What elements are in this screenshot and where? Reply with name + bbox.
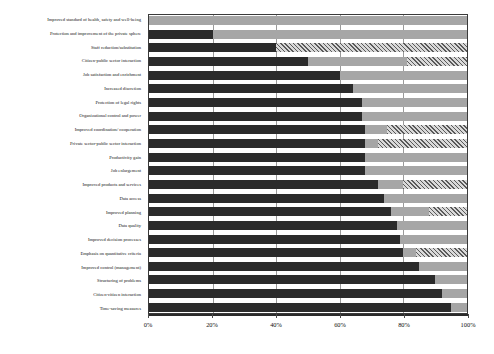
table-row bbox=[149, 16, 467, 25]
bar-segment-segment-b bbox=[397, 221, 467, 230]
bar-segment-segment-b bbox=[400, 235, 467, 244]
y-axis-label: Protection and improvement of the privat… bbox=[6, 29, 144, 38]
bar-segment-segment-a bbox=[149, 235, 400, 244]
y-axis-label: Data access bbox=[6, 194, 144, 203]
y-axis-label: Improved decision processes bbox=[6, 235, 144, 244]
y-axis-label: Citizen-public sector interaction bbox=[6, 56, 144, 65]
table-row bbox=[149, 112, 467, 121]
y-axis-label: Staff reduction/substitution bbox=[6, 43, 144, 52]
table-row bbox=[149, 57, 467, 66]
x-axis-tick bbox=[148, 314, 149, 318]
stacked-bar-chart: Improved standard of health, safety and … bbox=[0, 0, 494, 354]
bar-segment-segment-c bbox=[276, 43, 467, 52]
table-row bbox=[149, 30, 467, 39]
plot-area bbox=[148, 14, 468, 314]
table-row bbox=[149, 153, 467, 162]
bar-segment-segment-b bbox=[340, 71, 467, 80]
bar-segment-segment-b bbox=[442, 289, 467, 298]
table-row bbox=[149, 125, 467, 134]
bar-segment-segment-a bbox=[149, 139, 365, 148]
bar-segment-segment-a bbox=[149, 207, 391, 216]
bar-segment-segment-c bbox=[387, 125, 467, 134]
y-axis-label: Citizen-citizen interaction bbox=[6, 290, 144, 299]
bar-segment-segment-b bbox=[362, 112, 467, 121]
x-axis-tick bbox=[212, 314, 213, 318]
bar-segment-segment-a bbox=[149, 248, 403, 257]
bar-segment-segment-b bbox=[403, 248, 416, 257]
bar-segment-segment-a bbox=[149, 194, 384, 203]
table-row bbox=[149, 275, 467, 284]
table-row bbox=[149, 194, 467, 203]
bar-segment-segment-b bbox=[365, 166, 467, 175]
y-axis-label: Job satisfaction and enrichment bbox=[6, 70, 144, 79]
bar-rows bbox=[149, 15, 467, 313]
bar-segment-segment-b bbox=[308, 57, 407, 66]
y-axis-label: Improved products and services bbox=[6, 180, 144, 189]
table-row bbox=[149, 71, 467, 80]
y-axis-label: Increased discretion bbox=[6, 84, 144, 93]
bar-segment-segment-c bbox=[429, 207, 467, 216]
x-axis-tick bbox=[276, 314, 277, 318]
y-axis-label: Improved standard of health, safety and … bbox=[6, 15, 144, 24]
bar-segment-segment-a bbox=[149, 166, 365, 175]
bar-segment-segment-c bbox=[378, 139, 467, 148]
bar-segment-segment-a bbox=[149, 221, 397, 230]
bar-segment-segment-a bbox=[149, 98, 362, 107]
table-row bbox=[149, 235, 467, 244]
bar-segment-segment-a bbox=[149, 303, 451, 312]
bar-segment-segment-c bbox=[403, 180, 467, 189]
y-axis-category-labels: Improved standard of health, safety and … bbox=[6, 14, 144, 314]
table-row bbox=[149, 84, 467, 93]
bar-segment-segment-b bbox=[362, 98, 467, 107]
y-axis-label: Improved control (management) bbox=[6, 263, 144, 272]
bar-segment-segment-b bbox=[365, 139, 378, 148]
y-axis-label: Improved planning bbox=[6, 208, 144, 217]
bar-segment-segment-a bbox=[149, 153, 365, 162]
x-axis-tick-label: 100% bbox=[461, 320, 476, 330]
bar-segment-segment-a bbox=[149, 125, 365, 134]
x-axis-tick-label: 60% bbox=[334, 320, 346, 330]
bar-segment-segment-a bbox=[149, 112, 362, 121]
table-row bbox=[149, 166, 467, 175]
x-axis-tick bbox=[404, 314, 405, 318]
x-axis-tick-label: 0% bbox=[144, 320, 153, 330]
bar-segment-segment-b bbox=[384, 194, 467, 203]
y-axis-label: Data quality bbox=[6, 221, 144, 230]
table-row bbox=[149, 207, 467, 216]
bar-segment-segment-b bbox=[365, 125, 387, 134]
bar-segment-segment-a bbox=[149, 57, 308, 66]
table-row bbox=[149, 289, 467, 298]
bar-segment-segment-a bbox=[149, 275, 435, 284]
bar-segment-segment-b bbox=[419, 262, 467, 271]
bar-segment-segment-b bbox=[149, 16, 467, 25]
x-axis-tick bbox=[340, 314, 341, 318]
table-row bbox=[149, 180, 467, 189]
bar-segment-segment-c bbox=[416, 248, 467, 257]
bar-segment-segment-a bbox=[149, 180, 378, 189]
bar-segment-segment-a bbox=[149, 262, 419, 271]
x-axis-tick-label: 20% bbox=[206, 320, 218, 330]
y-axis-label: Job enlargement bbox=[6, 166, 144, 175]
bar-segment-segment-b bbox=[378, 180, 403, 189]
x-axis-tick-label: 40% bbox=[270, 320, 282, 330]
y-axis-label: Protection of legal rights bbox=[6, 98, 144, 107]
table-row bbox=[149, 262, 467, 271]
table-row bbox=[149, 43, 467, 52]
bar-segment-segment-a bbox=[149, 84, 353, 93]
y-axis-label: Time-saving measures bbox=[6, 304, 144, 313]
table-row bbox=[149, 248, 467, 257]
x-axis-tick-label: 80% bbox=[398, 320, 410, 330]
bar-segment-segment-b bbox=[435, 275, 467, 284]
bar-segment-segment-c bbox=[407, 57, 467, 66]
y-axis-label: Structuring of problems bbox=[6, 276, 144, 285]
bar-segment-segment-b bbox=[451, 303, 467, 312]
x-axis-line bbox=[148, 314, 468, 316]
y-axis-label: Emphasis on quantitative criteria bbox=[6, 249, 144, 258]
bar-segment-segment-b bbox=[213, 30, 467, 39]
table-row bbox=[149, 139, 467, 148]
bar-segment-segment-b bbox=[365, 153, 467, 162]
bar-segment-segment-a bbox=[149, 30, 213, 39]
table-row bbox=[149, 303, 467, 312]
bar-segment-segment-a bbox=[149, 289, 442, 298]
table-row bbox=[149, 221, 467, 230]
